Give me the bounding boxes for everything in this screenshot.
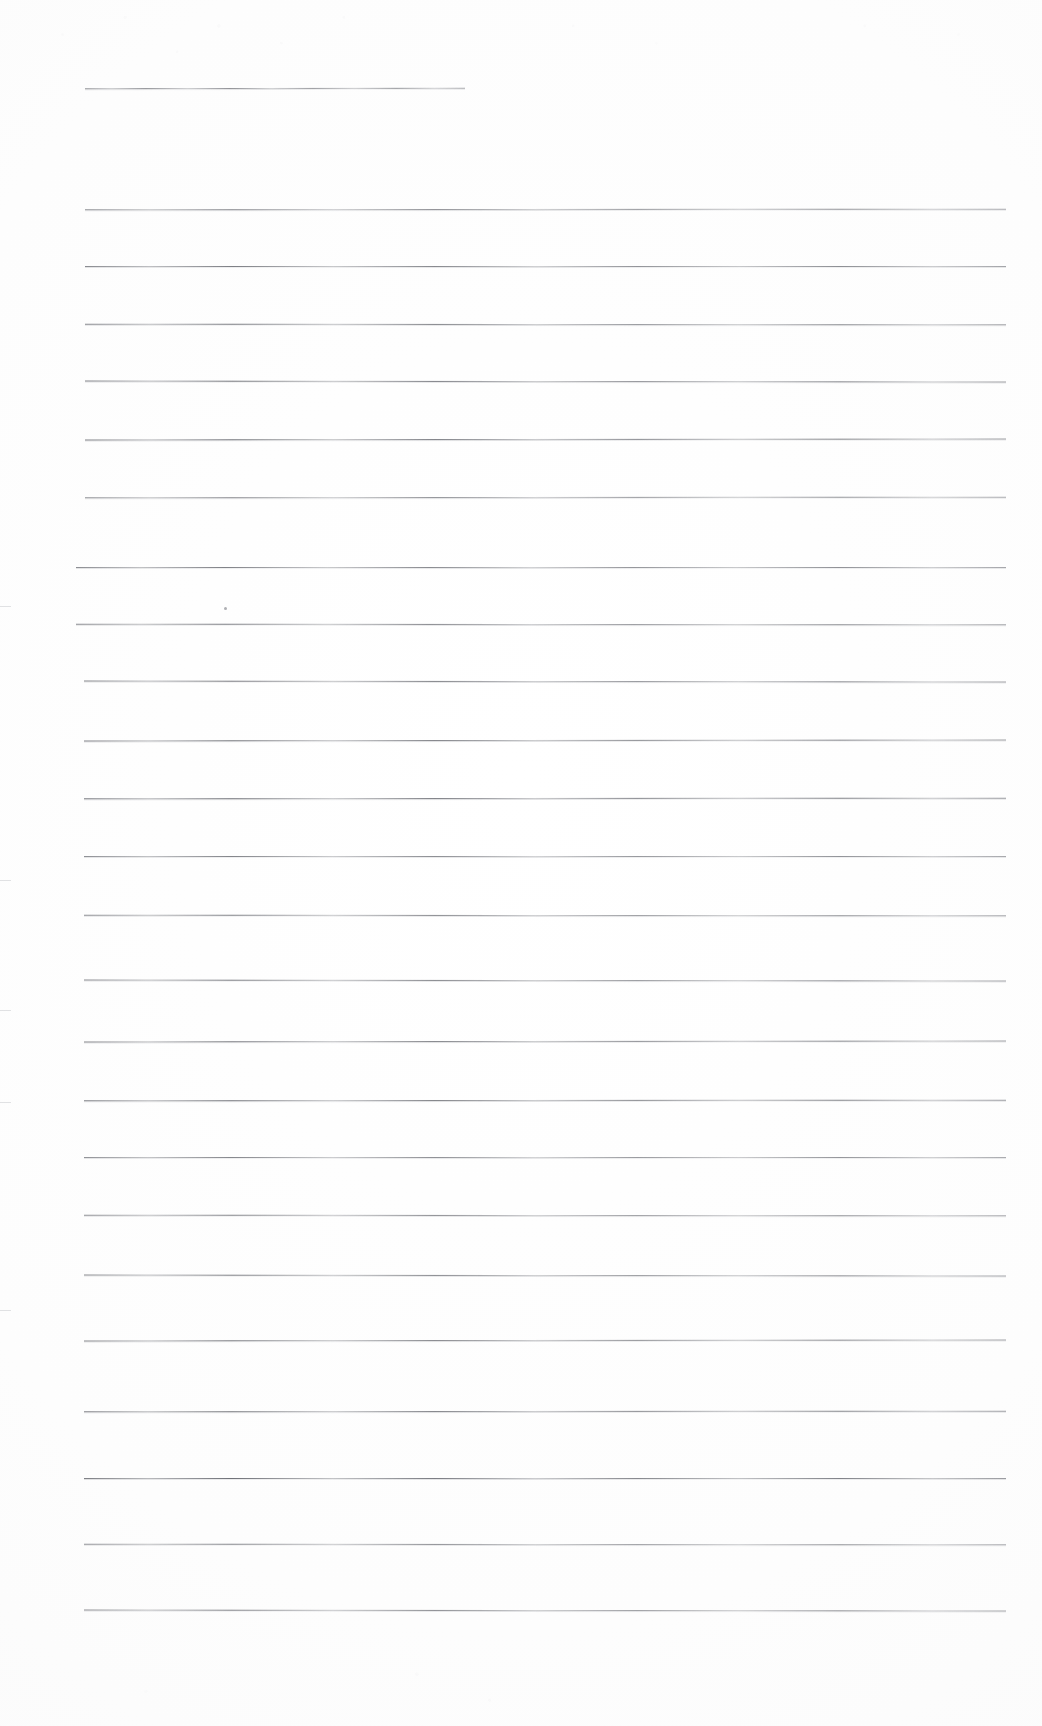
ruled-line [84,1609,1006,1611]
ruled-line [84,856,1006,857]
ruled-line [84,1157,1006,1158]
scan-edge-tick [0,606,11,607]
paper-speck [224,607,227,610]
scan-edge-tick [0,1102,11,1103]
ruled-line [85,380,1006,382]
ruled-line [85,209,1006,211]
ruled-line [76,624,1006,626]
ruled-line [84,1339,1006,1341]
ruled-line [85,266,1006,267]
scan-edge-tick [0,1310,11,1311]
ruled-line [84,1411,1006,1413]
ruled-line-short [85,88,465,89]
scan-edge-tick [0,880,11,881]
ruled-line [84,1100,1006,1102]
ruled-line [84,1040,1006,1042]
ruled-line [85,497,1006,499]
ruled-line [84,979,1006,981]
ruled-line [85,438,1006,440]
ruled-line [76,567,1006,568]
ruled-line [84,1544,1006,1546]
ruled-lines-layer [0,0,1042,1726]
ruled-line [84,1478,1006,1479]
ruled-line [84,1215,1006,1217]
ruled-line [84,915,1006,917]
scan-edge-tick [0,1010,11,1011]
ruled-line [84,798,1006,800]
ruled-line [85,324,1006,326]
ruled-line [84,739,1006,741]
ruled-line [84,680,1006,682]
ruled-line [84,1274,1006,1276]
scanned-page [0,0,1042,1726]
